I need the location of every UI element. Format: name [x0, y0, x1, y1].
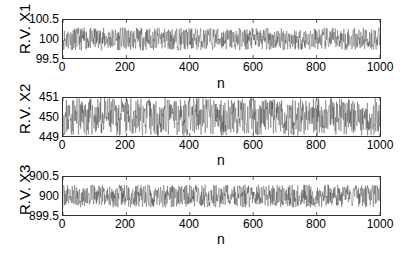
- x-axis-label: n: [211, 231, 231, 247]
- x-tick: 1000: [360, 139, 400, 151]
- x-tick: 200: [105, 218, 145, 230]
- x-axis-label: n: [211, 152, 231, 168]
- x-tick: 400: [169, 139, 209, 151]
- plot-area: [62, 19, 381, 59]
- line-series: [63, 177, 380, 215]
- x-tick: 0: [42, 218, 82, 230]
- x-axis-label: n: [211, 75, 231, 91]
- y-tick: 100.5: [9, 13, 59, 25]
- y-tick: 900.5: [9, 170, 59, 182]
- x-tick: 600: [233, 218, 273, 230]
- y-tick: 900: [9, 190, 59, 202]
- x-tick: 200: [105, 61, 145, 73]
- x-tick: 800: [296, 218, 336, 230]
- x-tick: 400: [169, 218, 209, 230]
- x-tick: 0: [42, 61, 82, 73]
- plot-area: [62, 176, 381, 216]
- x-tick: 0: [42, 139, 82, 151]
- x-tick: 1000: [360, 61, 400, 73]
- line-series: [63, 98, 380, 136]
- x-tick: 1000: [360, 218, 400, 230]
- line-series: [63, 20, 380, 58]
- x-tick: 600: [233, 61, 273, 73]
- x-tick: 800: [296, 61, 336, 73]
- x-tick: 200: [105, 139, 145, 151]
- y-tick: 451: [9, 91, 59, 103]
- y-tick: 100: [9, 33, 59, 45]
- x-tick: 800: [296, 139, 336, 151]
- x-tick: 400: [169, 61, 209, 73]
- y-tick: 450: [9, 111, 59, 123]
- x-tick: 600: [233, 139, 273, 151]
- plot-area: [62, 97, 381, 137]
